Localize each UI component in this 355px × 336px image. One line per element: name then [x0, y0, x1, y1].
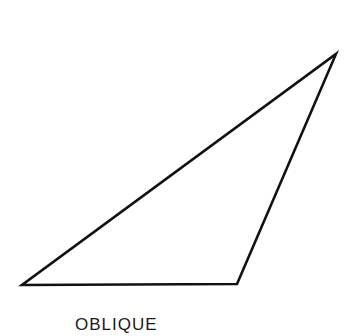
oblique-triangle	[22, 54, 336, 285]
triangle-label: OBLIQUE	[75, 316, 158, 334]
oblique-triangle-diagram: OBLIQUE	[0, 0, 355, 336]
triangle-figure	[0, 0, 355, 336]
